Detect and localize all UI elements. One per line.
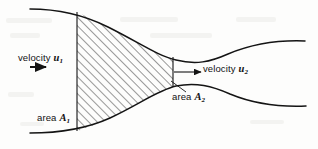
area-1-label: areaA1 xyxy=(37,113,70,125)
area-2-subscript: 2 xyxy=(202,96,206,104)
area-2-symbol: A xyxy=(194,91,201,102)
control-volume-hatching xyxy=(60,0,190,149)
area-2-label: areaA2 xyxy=(172,92,205,104)
velocity-2-label: velocityu2 xyxy=(203,64,248,76)
duct-top-wall xyxy=(30,9,305,62)
duct-bottom-wall xyxy=(30,84,306,133)
nozzle-diagram xyxy=(0,0,318,149)
area-1-text: area xyxy=(37,112,56,123)
velocity-1-label: velocityu1 xyxy=(18,53,63,65)
area-1-subscript: 1 xyxy=(67,117,71,125)
velocity-1-subscript: 1 xyxy=(59,57,63,65)
velocity-2-subscript: 2 xyxy=(244,68,248,76)
area-1-symbol: A xyxy=(59,112,66,123)
figure-canvas: velocityu1 velocityu2 areaA1 areaA2 xyxy=(0,0,318,149)
area-2-text: area xyxy=(172,91,191,102)
velocity-2-text: velocity xyxy=(203,63,235,74)
velocity-1-text: velocity xyxy=(18,52,50,63)
